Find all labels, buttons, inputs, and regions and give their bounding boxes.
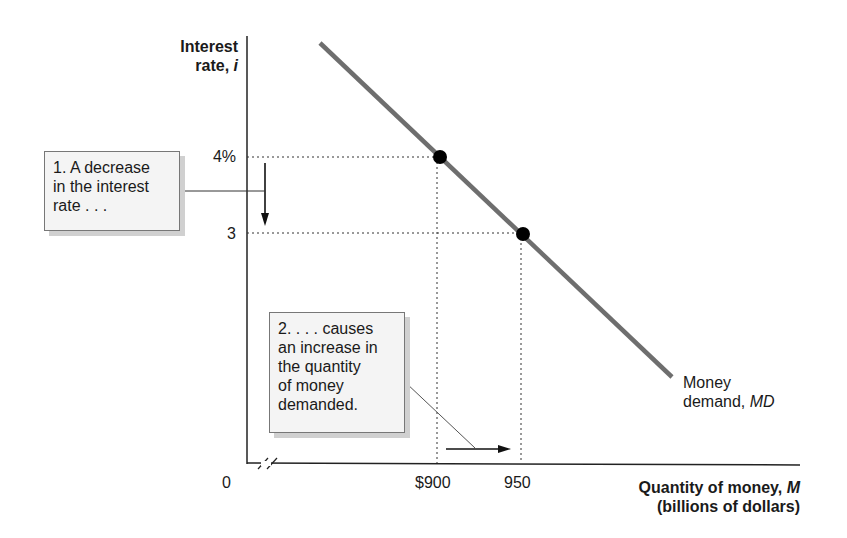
x-axis <box>247 463 800 465</box>
x-axis-variable: M <box>787 479 800 496</box>
y-axis-title-line1: Interest <box>150 37 238 56</box>
annotation-1-line3: rate . . . <box>53 196 171 215</box>
curve-variable: MD <box>750 393 775 410</box>
annotation-1-line1: 1. A decrease <box>53 158 171 177</box>
annotation-box-1: 1. A decrease in the interest rate . . . <box>44 151 180 231</box>
annotation-1-line2: in the interest <box>53 177 171 196</box>
x-tick-900: $900 <box>415 473 451 492</box>
x-tick-950: 950 <box>504 473 531 492</box>
chart-canvas <box>0 0 847 538</box>
annotation-2-line1: 2. . . . causes <box>278 319 396 338</box>
y-axis-title-line2: rate, i <box>150 56 238 75</box>
curve-label: Money demand, MD <box>683 373 775 411</box>
x-tick-0: 0 <box>222 473 231 492</box>
note2-leader <box>405 382 475 448</box>
down-arrow-icon <box>261 163 269 226</box>
annotation-2-line5: demanded. <box>278 395 396 414</box>
x-axis-title-line1: Quantity of money, M <box>560 478 800 497</box>
curve-label-line2: demand, MD <box>683 392 775 411</box>
annotation-2-line2: an increase in <box>278 338 396 357</box>
x-axis-title: Quantity of money, M (billions of dollar… <box>560 478 800 516</box>
y-axis-variable: i <box>234 57 238 74</box>
annotation-2-line3: the quantity <box>278 357 396 376</box>
curve-label-line1: Money <box>683 373 775 392</box>
x-axis-title-line2: (billions of dollars) <box>560 497 800 516</box>
annotation-box-2: 2. . . . causes an increase in the quant… <box>269 312 405 433</box>
point-900-4 <box>433 150 447 164</box>
y-tick-4pct: 4% <box>190 147 236 166</box>
right-arrow-icon <box>446 445 511 453</box>
x-axis-title-text: Quantity of money, <box>639 479 787 496</box>
y-tick-3: 3 <box>190 224 236 243</box>
curve-label-text: demand, <box>683 393 750 410</box>
annotation-2-line4: of money <box>278 376 396 395</box>
y-axis-title-text: rate, <box>195 57 233 74</box>
point-950-3 <box>516 227 530 241</box>
y-axis-title: Interest rate, i <box>150 37 238 75</box>
